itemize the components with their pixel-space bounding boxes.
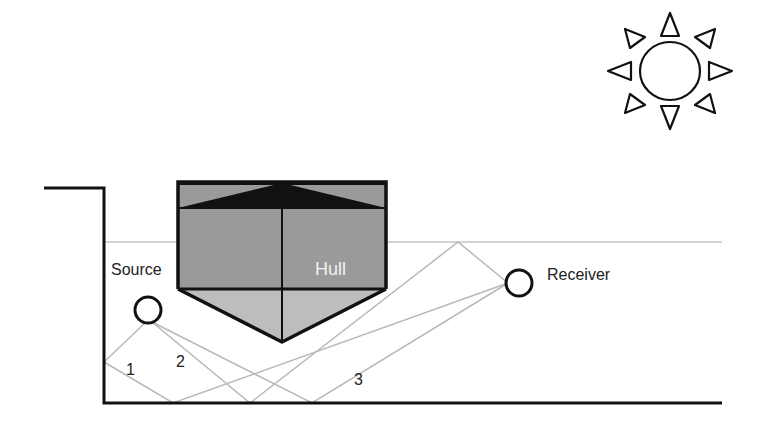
path-label-3: 3	[354, 372, 363, 388]
hull-label: Hull	[315, 260, 346, 278]
hull	[178, 182, 386, 342]
source-transducer	[135, 297, 161, 323]
receiver-transducer	[506, 270, 532, 296]
path-label-2: 2	[176, 354, 185, 370]
acoustic-diagram	[0, 0, 764, 435]
source-label: Source	[111, 262, 162, 278]
path-label-1: 1	[126, 362, 135, 378]
sun-icon	[608, 13, 732, 129]
receiver-label: Receiver	[547, 267, 610, 283]
